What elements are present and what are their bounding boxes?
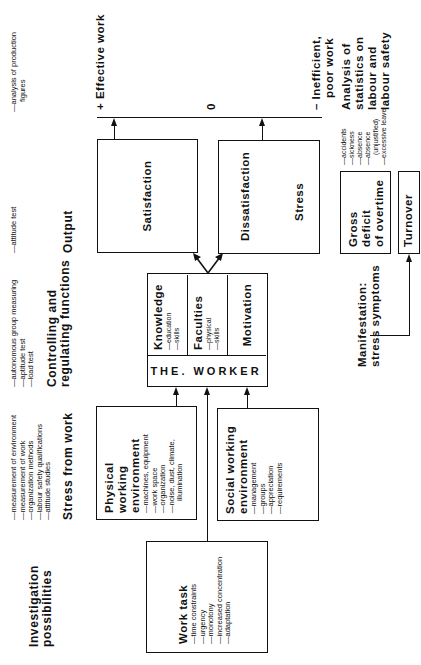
physical-env-title: Physical working (103, 413, 129, 513)
gross-deficit-line2: of overtime (373, 178, 386, 247)
satisfaction-label: Satisfaction (141, 160, 154, 231)
physical-env-list: —machines, equipment —work space —organi… (142, 413, 185, 513)
methods-effective: —analysis of production figures (10, 32, 27, 112)
motivation-title: Motivation (241, 284, 254, 347)
list-item: —education (165, 280, 173, 350)
motivation-cell: Motivation (228, 275, 266, 355)
method-item: —load test (27, 280, 36, 387)
connector-manifestation-h (409, 262, 410, 336)
connector-manifestation (370, 335, 409, 336)
social-env-box: Social working environment —management —… (217, 408, 319, 521)
scale-line (97, 117, 322, 118)
list-item: —requirements (276, 415, 285, 514)
list-item: illumination (176, 413, 185, 513)
arrow-icon (406, 254, 412, 262)
statistics-title-line: Analysis of (340, 32, 353, 110)
heading-output-text: Output (62, 173, 75, 253)
list-item: —absence (356, 109, 364, 165)
turnover-label: Turnover (402, 178, 415, 247)
connector-social-worker (247, 395, 248, 408)
scale-negative-label: – Inefficient, poor work (310, 36, 336, 110)
methods-stress: —measurement of environment —measurement… (10, 415, 53, 520)
faculties-title: Faculties (192, 280, 205, 350)
scale-zero-label: 0 (205, 103, 218, 110)
connector-dissatisfaction-scale (262, 126, 263, 140)
worker-box: THE. WORKER Knowledge —education —skills… (147, 273, 268, 387)
list-item: —accidents (340, 109, 348, 165)
list-item: —skills (173, 280, 181, 350)
statistics-list: —accidents —sickness —absence —absence (… (340, 109, 388, 165)
manifestation-label: Manifestation: stress symptoms (356, 257, 382, 367)
work-task-list: —time constraints —urgency —monotony —in… (190, 550, 233, 644)
dissatisfaction-label: Dissatisfaction (239, 152, 252, 241)
statistics-title-line: labour and (366, 32, 379, 110)
knowledge-list: —education —skills (165, 280, 181, 350)
satisfaction-box: Satisfaction (97, 139, 198, 253)
statistics-title: Analysis of statistics on labour and lab… (340, 32, 392, 110)
connector-physical-worker (176, 395, 177, 406)
arrow-icon (244, 387, 250, 395)
heading-stress: Stress from work (62, 380, 75, 520)
methods-output: —attitude test (10, 207, 19, 253)
connector-satisfaction-scale (114, 126, 115, 139)
statistics-title-line: statistics on (353, 32, 366, 110)
list-item: —absence (364, 109, 372, 165)
stress-label: Stress (293, 183, 306, 221)
method-item: figures (19, 32, 28, 112)
manifestation-text: Manifestation: stress symptoms (356, 257, 382, 367)
list-item: —sickness (348, 109, 356, 165)
scale-positive-label: + Effective work (94, 14, 107, 110)
social-env-list: —management —groups —appreciation —requi… (250, 415, 284, 514)
physical-env-box: Physical working environment —machines, … (96, 406, 197, 520)
list-item: (unjustified) (372, 109, 380, 165)
arrow-icon (259, 118, 265, 126)
methods-controlling: —autonomous group measuring —aptitude te… (10, 280, 36, 387)
heading-stress-text: Stress from work (62, 380, 75, 520)
scale-negative-line1: – Inefficient, (310, 36, 323, 110)
scale-negative-line2: poor work (323, 36, 336, 110)
statistics-title-line: labour safety (379, 32, 392, 110)
list-item: —adaptation (224, 550, 233, 644)
heading-controlling: Controlling and regulating functions (46, 247, 72, 387)
faculties-cell: Faculties —physical —skills (188, 275, 228, 355)
gross-deficit-box: Gross deficit of overtime (340, 171, 391, 254)
worker-label: THE. WORKER (147, 365, 265, 377)
knowledge-title: Knowledge (152, 280, 165, 350)
knowledge-cell: Knowledge —education —skills (148, 275, 188, 355)
heading-controlling-text: Controlling and regulating functions (46, 247, 72, 387)
heading-investigation-text: Investigation possibilities (28, 527, 54, 647)
connector-worktask-worker (207, 395, 208, 541)
dissatisfaction-box: Dissatisfaction Stress (218, 140, 320, 254)
gross-deficit-line1: Gross deficit (347, 178, 373, 247)
list-item: —skills (213, 280, 221, 350)
worker-label-strip: THE. WORKER (148, 355, 266, 386)
list-item: —physical (205, 280, 213, 350)
arrow-icon (173, 387, 179, 395)
arrow-icon (204, 387, 210, 395)
arrow-icon (111, 118, 117, 126)
split-arrows (190, 251, 230, 275)
heading-investigation: Investigation possibilities (28, 527, 54, 647)
heading-output: Output (62, 173, 75, 253)
method-item: —attitude test (10, 207, 19, 253)
list-item: —excessive leave (380, 109, 388, 165)
stress-model-diagram: Investigation possibilities Stress from … (0, 0, 421, 665)
work-task-box: Work task —time constraints —urgency —mo… (146, 541, 268, 653)
method-item: —attitude studies (44, 415, 53, 520)
social-env-title: Social working (224, 415, 237, 514)
faculties-list: —physical —skills (205, 280, 221, 350)
turnover-box: Turnover (398, 171, 420, 254)
